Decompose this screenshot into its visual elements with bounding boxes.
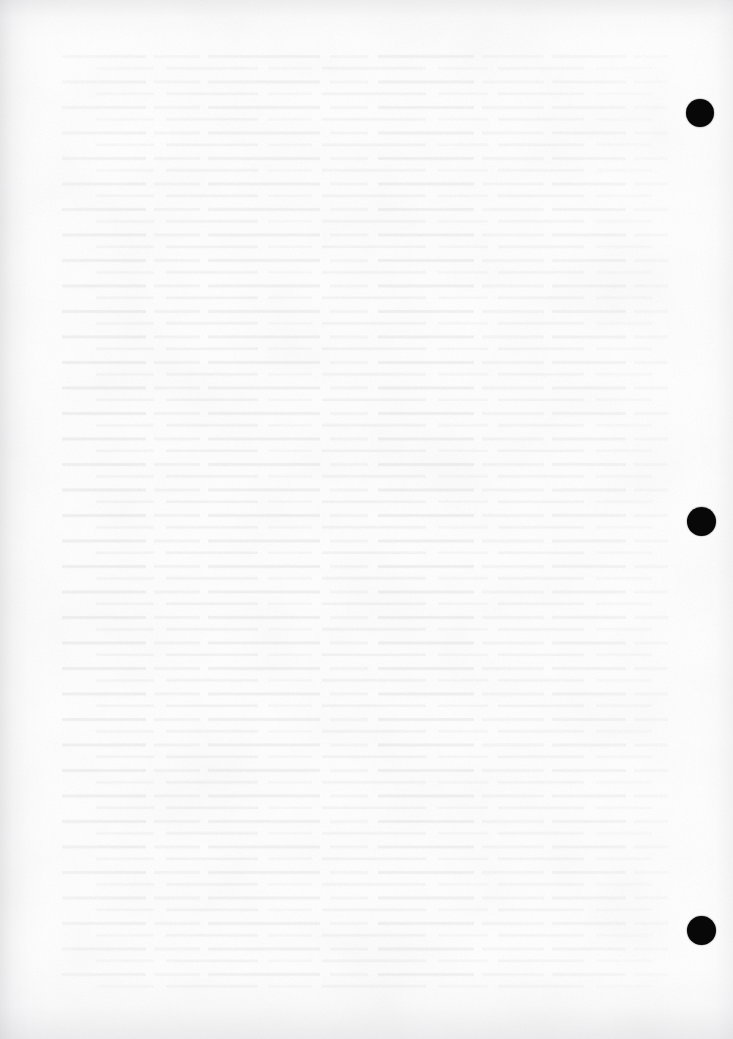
paper-grain-texture <box>0 0 733 1039</box>
page-edge-shadow-left <box>0 0 46 1039</box>
page-edge-shadow-top <box>0 0 733 40</box>
scanned-page <box>0 0 733 1039</box>
registration-mark-top <box>686 99 714 127</box>
page-edge-shadow-bottom <box>0 969 733 1039</box>
registration-mark-bottom <box>687 916 716 945</box>
registration-mark-middle <box>687 507 716 536</box>
